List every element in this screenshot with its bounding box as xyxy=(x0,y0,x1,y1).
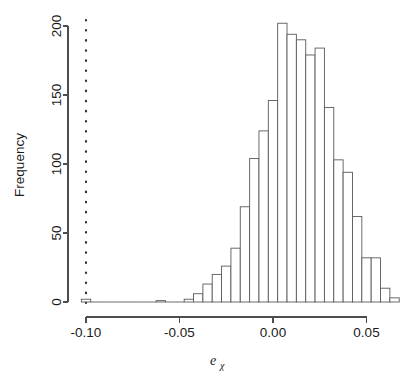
histogram-bin xyxy=(194,294,203,302)
histogram-bin xyxy=(315,48,324,302)
histogram-bin xyxy=(212,274,221,302)
x-axis-title-base: e xyxy=(210,353,216,368)
histogram-bin xyxy=(184,299,193,302)
histogram-bin xyxy=(203,284,212,302)
histogram-bin xyxy=(250,158,259,302)
x-tick-label: 0.05 xyxy=(353,325,379,340)
y-tick-label: 200 xyxy=(49,15,64,38)
y-axis-title: Frequency xyxy=(12,133,27,197)
x-tick-label: -0.05 xyxy=(164,325,195,340)
x-tick-label: 0.00 xyxy=(260,325,286,340)
histogram-bin xyxy=(231,248,240,302)
histogram-bin xyxy=(240,207,249,302)
histogram-bin xyxy=(343,172,352,302)
histogram-bin xyxy=(156,301,165,302)
histogram-bin xyxy=(81,299,90,302)
histogram-bin xyxy=(362,258,371,302)
histogram-bin xyxy=(268,101,277,302)
y-tick-label: 0 xyxy=(49,298,64,306)
histogram-bin xyxy=(296,40,305,302)
histogram-bin xyxy=(334,160,343,302)
histogram-bin xyxy=(222,266,231,302)
y-tick-label: 50 xyxy=(49,225,64,240)
histogram-bin xyxy=(371,258,380,302)
histogram-plot: 050100150200 -0.10-0.050.000.05 Frequenc… xyxy=(0,0,420,385)
y-tick-label: 150 xyxy=(49,84,64,107)
histogram-bin xyxy=(352,216,361,302)
x-axis-title-subscript: χ xyxy=(219,360,225,371)
y-tick-label: 100 xyxy=(49,153,64,176)
histogram-bin xyxy=(306,55,315,302)
histogram-bin xyxy=(259,131,268,302)
histogram-bin xyxy=(287,34,296,302)
chart-canvas: 050100150200 -0.10-0.050.000.05 Frequenc… xyxy=(0,0,420,385)
histogram-bin xyxy=(324,107,333,302)
histogram-bin xyxy=(278,23,287,302)
x-tick-label: -0.10 xyxy=(71,325,102,340)
histogram-bin xyxy=(390,298,399,302)
histogram-bin xyxy=(381,288,390,302)
